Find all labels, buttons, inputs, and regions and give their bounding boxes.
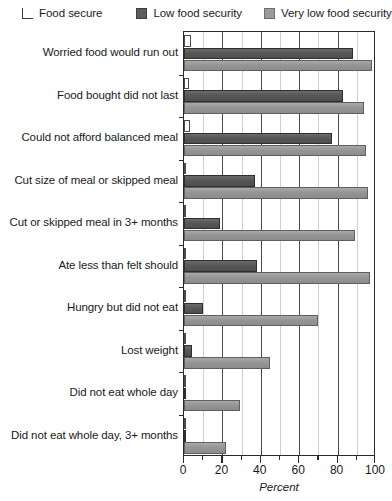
x-axis-tick-minor [202, 456, 203, 460]
x-axis-tick-labels: 020406080100 [183, 463, 375, 479]
dark-gray-square-swatch-icon [136, 8, 147, 19]
y-axis-category-label: Worried food would run out [43, 46, 178, 58]
x-axis-tick-major [221, 456, 222, 463]
bar [184, 163, 186, 175]
legend-item-very-low-food-security: Very low food security [264, 7, 392, 19]
y-axis-tick [179, 372, 184, 373]
bar [184, 102, 364, 114]
x-axis-tick-minor [241, 456, 242, 460]
y-axis-category-label: Did not eat whole day [70, 386, 179, 398]
bar [184, 442, 226, 454]
bar [184, 333, 186, 345]
x-axis-tick-major [298, 456, 299, 463]
x-axis-tick-minor [317, 456, 318, 460]
bar [184, 187, 368, 199]
x-axis-ticks [183, 456, 375, 463]
x-axis-title: Percent [183, 481, 375, 493]
x-axis-tick-major [183, 456, 184, 463]
bar [184, 418, 186, 430]
x-axis-tick-label: 20 [215, 463, 228, 477]
x-axis-tick-label: 100 [365, 463, 385, 477]
bar [184, 60, 372, 72]
legend-item-food-secure: Food secure [22, 7, 102, 19]
x-axis-tick-minor [279, 456, 280, 460]
bar [184, 145, 366, 157]
bar [184, 133, 332, 145]
x-axis-tick-label: 60 [292, 463, 305, 477]
y-axis-tick [179, 160, 184, 161]
y-axis-category-label: Did not eat whole day, 3+ months [11, 429, 178, 441]
x-axis-tick-minor [356, 456, 357, 460]
x-axis-tick-major [337, 456, 338, 463]
plot-area [183, 31, 375, 456]
bar-series-layer [184, 32, 374, 455]
y-axis-tick [179, 245, 184, 246]
bar [184, 35, 191, 47]
y-axis-category-label: Ate less than felt should [58, 259, 178, 271]
bar [184, 248, 186, 260]
y-axis-category-labels: Worried food would run outFood bought di… [0, 31, 178, 456]
bar [184, 357, 270, 369]
x-axis-tick-major [260, 456, 261, 463]
x-axis-tick-label: 80 [330, 463, 343, 477]
y-axis-category-label: Hungry but did not eat [67, 301, 178, 313]
bar [184, 175, 255, 187]
y-axis-tick [179, 202, 184, 203]
bar [184, 290, 186, 302]
bar [184, 375, 186, 387]
y-axis-category-label: Cut size of meal or skipped meal [14, 174, 178, 186]
bar [184, 272, 370, 284]
y-axis-tick [179, 287, 184, 288]
x-axis-tick-label: 40 [253, 463, 266, 477]
y-axis-category-label: Food bought did not last [57, 89, 178, 101]
bar [184, 48, 353, 60]
y-axis-category-label: Lost weight [121, 344, 178, 356]
light-gray-square-swatch-icon [264, 8, 275, 19]
open-square-swatch-icon [22, 8, 33, 19]
bar [184, 230, 355, 242]
bar [184, 345, 192, 357]
y-axis-tick [179, 117, 184, 118]
bar [184, 388, 186, 400]
chart-legend: Food secure Low food security Very low f… [0, 3, 386, 23]
bar [184, 430, 186, 442]
bar [184, 303, 203, 315]
legend-item-low-food-security: Low food security [136, 7, 242, 19]
bar [184, 315, 318, 327]
y-axis-tick [179, 330, 184, 331]
bar [184, 90, 343, 102]
legend-label: Very low food security [281, 7, 392, 19]
x-axis-tick-label: 0 [180, 463, 187, 477]
bar [184, 400, 240, 412]
y-axis-category-label: Cut or skipped meal in 3+ months [10, 216, 178, 228]
y-axis-tick [179, 75, 184, 76]
bar [184, 120, 190, 132]
bar [184, 218, 220, 230]
x-axis-tick-major [374, 456, 375, 463]
legend-label: Low food security [153, 7, 242, 19]
bar [184, 78, 189, 90]
y-axis-tick [179, 415, 184, 416]
bar [184, 205, 186, 217]
y-axis-category-label: Could not afford balanced meal [21, 131, 178, 143]
bar [184, 260, 257, 272]
legend-label: Food secure [39, 7, 102, 19]
